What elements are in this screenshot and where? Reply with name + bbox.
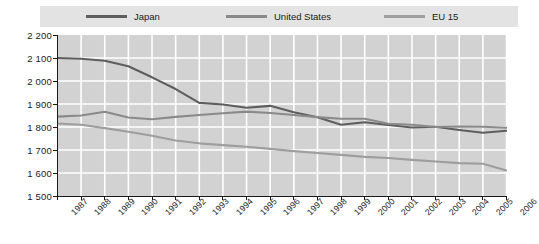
x-axis-label: 1995: [257, 196, 278, 217]
y-axis-tick-labels: 1 5001 6001 7001 8001 9002 0002 1002 200: [0, 35, 52, 196]
legend-item-label: United States: [274, 12, 331, 22]
x-axis-tick: [293, 196, 294, 200]
x-axis-label: 2000: [376, 196, 397, 217]
x-axis-tick: [270, 196, 271, 200]
x-axis-tick: [222, 196, 223, 200]
x-axis-label: 1989: [116, 196, 137, 217]
y-axis-label: 2 200: [27, 30, 52, 41]
x-axis-label: 2004: [470, 196, 491, 217]
series-line-japan: [58, 58, 507, 133]
x-axis-label: 1996: [281, 196, 302, 217]
y-axis-tick: [53, 58, 57, 59]
x-axis-label: 1992: [186, 196, 207, 217]
x-axis-label: 1993: [210, 196, 231, 217]
y-axis-tick: [53, 104, 57, 105]
legend-swatch-icon: [86, 15, 127, 18]
x-axis-tick: [341, 196, 342, 200]
x-axis-label: 1991: [163, 196, 184, 217]
x-axis-label: 2003: [446, 196, 467, 217]
y-axis-tick: [53, 150, 57, 151]
y-axis-label: 1 800: [27, 122, 52, 133]
x-axis-tick: [246, 196, 247, 200]
legend-item-united-states: United States: [226, 6, 331, 27]
x-axis-tick: [435, 196, 436, 200]
y-axis-label: 1 600: [27, 168, 52, 179]
plot-canvas: [57, 35, 507, 196]
x-axis-label: 1998: [328, 196, 349, 217]
x-axis-label: 1987: [68, 196, 89, 217]
legend-swatch-icon: [226, 15, 267, 18]
x-axis-tick: [482, 196, 483, 200]
x-axis-label: 1990: [139, 196, 160, 217]
x-axis-label: 2001: [399, 196, 420, 217]
x-axis-tick: [81, 196, 82, 200]
x-axis-tick: [128, 196, 129, 200]
x-axis-label: 2005: [494, 196, 515, 217]
x-axis-tick-labels: 1987198819891990199119921993199419951996…: [0, 196, 525, 244]
y-axis-tick: [53, 127, 57, 128]
x-axis-tick: [104, 196, 105, 200]
x-axis-tick: [506, 196, 507, 200]
y-axis-tick: [53, 35, 57, 36]
legend-swatch-icon: [384, 15, 425, 18]
legend-item-label: Japan: [134, 12, 160, 22]
x-axis-tick: [152, 196, 153, 200]
legend-item-label: EU 15: [432, 12, 458, 22]
x-axis-tick: [57, 196, 58, 200]
plot-area: [57, 35, 507, 196]
series-line-united-states: [58, 112, 507, 128]
x-axis-label: 1997: [305, 196, 326, 217]
x-axis-tick: [459, 196, 460, 200]
x-axis-label: 1988: [92, 196, 113, 217]
x-axis-label: 1999: [352, 196, 373, 217]
y-axis-label: 1 900: [27, 99, 52, 110]
y-axis-label: 2 000: [27, 76, 52, 87]
x-axis-tick: [388, 196, 389, 200]
x-axis-tick: [364, 196, 365, 200]
series-line-eu-15: [58, 124, 507, 171]
x-axis-label: 2002: [423, 196, 444, 217]
x-axis-tick: [317, 196, 318, 200]
y-axis-line: [57, 35, 58, 197]
legend-item-japan: Japan: [86, 6, 160, 27]
y-axis-tick: [53, 196, 57, 197]
x-axis-tick: [411, 196, 412, 200]
x-axis-label: 2006: [517, 196, 538, 217]
y-axis-tick: [53, 81, 57, 82]
x-axis-tick: [199, 196, 200, 200]
x-axis-label: 1994: [234, 196, 255, 217]
y-axis-label: 1 700: [27, 145, 52, 156]
y-axis-label: 2 100: [27, 53, 52, 64]
x-axis-tick: [175, 196, 176, 200]
legend-item-eu-15: EU 15: [384, 6, 458, 27]
y-axis-tick: [53, 173, 57, 174]
